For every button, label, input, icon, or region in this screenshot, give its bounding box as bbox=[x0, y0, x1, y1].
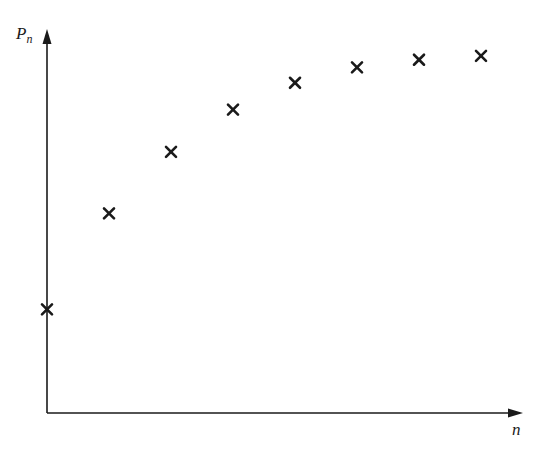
y-axis bbox=[43, 29, 52, 413]
data-point-x-marker-icon bbox=[166, 147, 176, 157]
x-axis-label: n bbox=[512, 420, 521, 440]
y-axis-label: Pn bbox=[16, 24, 32, 47]
y-axis-label-subscript: n bbox=[26, 32, 32, 46]
data-point-x-marker-icon bbox=[290, 78, 300, 88]
x-axis-arrow-icon bbox=[508, 409, 523, 418]
x-axis bbox=[47, 409, 523, 418]
y-axis-label-main: P bbox=[16, 24, 26, 43]
data-point-x-marker-icon bbox=[104, 208, 114, 218]
y-axis-arrow-icon bbox=[43, 29, 52, 44]
data-points bbox=[42, 51, 486, 314]
data-point-x-marker-icon bbox=[476, 51, 486, 61]
x-axis-label-text: n bbox=[512, 420, 521, 439]
data-point-x-marker-icon bbox=[352, 62, 362, 72]
scatter-chart bbox=[0, 0, 534, 449]
data-point-x-marker-icon bbox=[228, 105, 238, 115]
data-point-x-marker-icon bbox=[414, 55, 424, 65]
